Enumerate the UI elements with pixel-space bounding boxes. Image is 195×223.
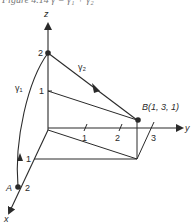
- point-z2: [45, 50, 51, 56]
- point-A: [15, 184, 21, 190]
- y-tick-2: 2: [115, 133, 120, 143]
- x-tick-2: 2: [25, 183, 30, 193]
- gamma1-path: [17, 53, 48, 187]
- x-axis: [9, 130, 48, 213]
- x-axis-label: x: [3, 214, 9, 223]
- y-tick-3: 3: [151, 133, 156, 143]
- gamma2-path: [48, 53, 137, 120]
- z-tick-1: 1: [39, 86, 44, 96]
- z-axis-label: z: [43, 9, 49, 19]
- line-integral-diagram: Figure 4.14 γ = γ₁ + γ₂ z 2 1 y 1 2 3 x …: [0, 0, 195, 223]
- projection-line-origin-to-base: [48, 130, 137, 159]
- gamma2-label: γ₂: [78, 62, 87, 72]
- gamma1-label: γ₁: [15, 83, 23, 93]
- projection-line-z1-to-B: [48, 91, 137, 120]
- z-tick-2: 2: [38, 48, 43, 58]
- point-B-label: B(1, 3, 1): [142, 102, 179, 112]
- y-axis-label: y: [184, 123, 190, 133]
- point-A-label: A: [5, 183, 12, 193]
- point-B: [135, 117, 141, 123]
- figure-caption: Figure 4.14 γ = γ₁ + γ₂: [1, 0, 94, 5]
- x-tick-1: 1: [26, 154, 31, 164]
